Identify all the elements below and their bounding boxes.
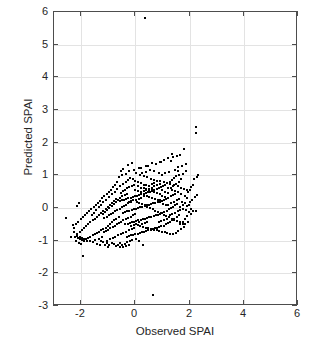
data-point <box>70 236 72 238</box>
data-point <box>113 203 115 205</box>
data-point <box>187 221 189 223</box>
data-point <box>175 232 177 234</box>
data-point <box>106 209 108 211</box>
data-point <box>141 231 143 233</box>
data-point <box>99 200 101 202</box>
data-point <box>180 187 182 189</box>
data-point <box>104 211 106 213</box>
data-point <box>163 214 165 216</box>
data-point <box>177 230 179 232</box>
data-point <box>98 206 100 208</box>
data-point <box>190 213 192 215</box>
data-point <box>126 187 128 189</box>
data-point <box>98 214 100 216</box>
data-point <box>97 202 99 204</box>
data-point <box>164 231 166 233</box>
data-point <box>165 204 167 206</box>
data-point <box>135 199 137 201</box>
y-axis-tick <box>292 240 297 241</box>
data-point <box>131 228 133 230</box>
data-point <box>116 181 118 183</box>
data-point <box>75 240 77 242</box>
data-point <box>129 177 131 179</box>
data-point <box>171 189 173 191</box>
data-point <box>145 189 147 191</box>
data-point <box>112 186 114 188</box>
data-point <box>89 221 91 223</box>
data-point <box>174 169 176 171</box>
data-point <box>94 239 96 241</box>
x-axis-tick <box>189 300 190 305</box>
data-point <box>113 219 115 221</box>
data-point <box>108 214 110 216</box>
data-point <box>89 236 91 238</box>
data-point <box>178 198 180 200</box>
data-point <box>144 17 146 19</box>
data-point <box>92 241 94 243</box>
data-point <box>95 204 97 206</box>
data-point <box>192 184 194 186</box>
data-point <box>151 162 153 164</box>
data-point <box>145 184 147 186</box>
data-point <box>163 159 165 161</box>
data-point <box>107 225 109 227</box>
data-point <box>100 229 102 231</box>
data-point <box>156 188 158 190</box>
x-axis-tick-label: 0 <box>114 308 154 319</box>
data-point <box>177 166 179 168</box>
data-point <box>158 226 160 228</box>
x-axis-tick <box>243 300 244 305</box>
data-point <box>119 208 121 210</box>
data-point <box>148 185 150 187</box>
data-point <box>191 199 193 201</box>
data-point <box>138 194 140 196</box>
x-axis-tick-label: 6 <box>277 308 310 319</box>
data-point <box>162 203 164 205</box>
data-point <box>101 197 103 199</box>
data-point <box>90 208 92 210</box>
data-point <box>106 216 108 218</box>
data-point <box>169 214 171 216</box>
data-point <box>196 176 198 178</box>
y-axis-tick <box>53 174 58 175</box>
data-point <box>145 171 147 173</box>
data-point <box>114 225 116 227</box>
data-point <box>161 231 163 233</box>
data-point <box>107 246 109 248</box>
data-point <box>178 181 180 183</box>
data-point <box>181 201 183 203</box>
data-point <box>152 208 154 210</box>
data-point <box>156 229 158 231</box>
data-point <box>87 223 89 225</box>
data-point <box>139 232 141 234</box>
data-point <box>86 240 88 242</box>
y-axis-tick-label: 5 <box>4 39 48 50</box>
data-point <box>109 227 111 229</box>
data-point <box>93 206 95 208</box>
x-axis-tick <box>80 300 81 305</box>
data-point <box>181 165 183 167</box>
data-point <box>148 196 150 198</box>
data-point <box>135 208 137 210</box>
data-point <box>143 175 145 177</box>
data-point <box>128 229 130 231</box>
y-axis-tick <box>292 142 297 143</box>
data-point <box>130 225 132 227</box>
data-point <box>125 198 127 200</box>
data-point <box>133 208 135 210</box>
data-point <box>184 195 186 197</box>
data-point <box>141 203 143 205</box>
data-point <box>177 170 179 172</box>
data-point <box>158 221 160 223</box>
data-point <box>189 201 191 203</box>
data-point <box>112 212 114 214</box>
data-point <box>172 206 174 208</box>
data-point <box>156 192 158 194</box>
data-point <box>145 230 147 232</box>
scatter-plot-figure: -3-2-10123456-20246 Observed SPAI Predic… <box>0 0 310 349</box>
data-point <box>120 170 122 172</box>
data-point <box>82 216 84 218</box>
x-axis-tick-label: -2 <box>60 308 100 319</box>
data-point <box>134 189 136 191</box>
data-point <box>123 199 125 201</box>
